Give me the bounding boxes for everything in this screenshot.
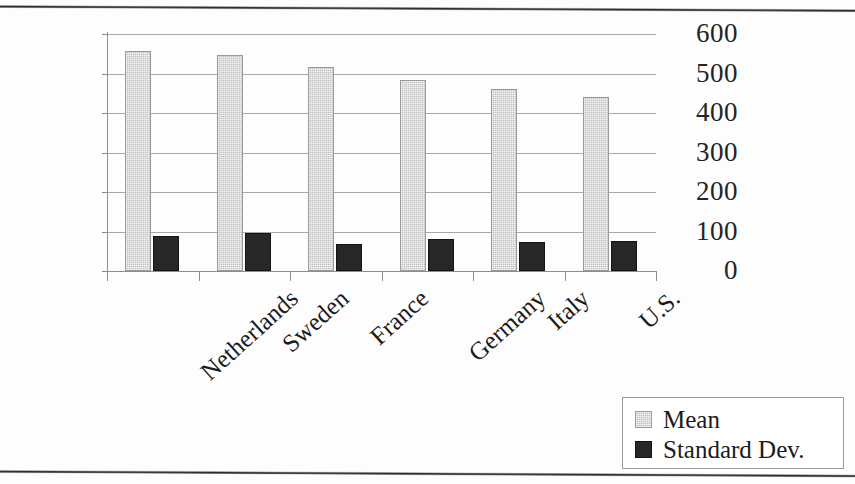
bar-mean (308, 67, 334, 271)
x-axis-tick (290, 271, 291, 281)
x-axis-tick (199, 271, 200, 281)
bar-standard-dev (611, 241, 637, 271)
chart-legend: Mean Standard Dev. (622, 397, 844, 469)
bar-group (308, 34, 362, 271)
x-axis-category-label: France (365, 285, 433, 350)
y-axis-tick (102, 113, 108, 114)
legend-item-mean: Mean (635, 404, 843, 434)
y-axis-tick (102, 192, 108, 193)
gridline (107, 34, 656, 35)
y-axis-tick-label: 600 (668, 20, 738, 47)
bar-standard-dev (245, 233, 271, 271)
x-axis-tick (107, 271, 108, 281)
y-axis-tick (102, 153, 108, 154)
bar-mean (400, 80, 426, 271)
bar-group (217, 34, 271, 271)
bar-standard-dev (519, 242, 545, 271)
x-axis-category-label: Italy (543, 285, 594, 335)
y-axis-tick-label: 400 (668, 99, 738, 126)
gridline (107, 74, 656, 75)
y-axis-tick-label: 100 (668, 218, 738, 245)
gridline (107, 153, 656, 154)
bar-mean (491, 89, 517, 271)
x-axis-tick (565, 271, 566, 281)
bar-mean (583, 97, 609, 271)
y-axis-tick-label: 300 (668, 139, 738, 166)
y-axis-tick (102, 74, 108, 75)
page-rule-bottom (0, 470, 855, 477)
page-rule-top (0, 5, 855, 12)
y-axis-tick (102, 232, 108, 233)
bar-mean (125, 51, 151, 271)
bar-standard-dev (428, 239, 454, 271)
chart-figure: 0100200300400500600 NetherlandsSwedenFra… (0, 0, 855, 484)
x-axis-tick (473, 271, 474, 281)
bar-group (583, 34, 637, 271)
x-axis-category-label: Germany (463, 285, 550, 367)
y-axis-tick (102, 34, 108, 35)
x-axis-tick (656, 271, 657, 281)
x-axis-tick (382, 271, 383, 281)
gridline (107, 192, 656, 193)
y-axis-tick-label: 0 (668, 257, 738, 284)
bar-standard-dev (153, 236, 179, 271)
y-axis-tick-label: 500 (668, 60, 738, 87)
x-axis-category-label: U.S. (634, 285, 684, 334)
standard-dev-swatch-icon (635, 441, 652, 458)
y-axis-tick-label: 200 (668, 178, 738, 205)
gridline (107, 113, 656, 114)
bar-standard-dev (336, 244, 362, 271)
bar-group (491, 34, 545, 271)
mean-swatch-icon (635, 411, 652, 428)
legend-item-standard-dev: Standard Dev. (635, 434, 843, 464)
bar-group (125, 34, 179, 271)
bar-mean (217, 55, 243, 271)
legend-label-standard-dev: Standard Dev. (663, 437, 804, 462)
plot-area (107, 34, 656, 271)
legend-label-mean: Mean (663, 407, 720, 432)
gridline (107, 232, 656, 233)
bar-group (400, 34, 454, 271)
